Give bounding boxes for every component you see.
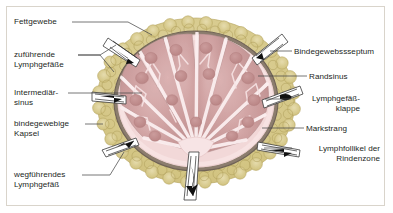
label-intermediaersinus: Intermediär- sinus	[14, 88, 58, 107]
label-wegfuehrendes-lymphgefaess: wegführendes Lymphgefäß	[14, 170, 65, 189]
label-randsinus: Randsinus	[309, 72, 348, 82]
label-bindegewebssseptum: Bindegewebssseptum	[294, 47, 374, 57]
label-bindegewebige-kapsel: bindegewebige Kapsel	[14, 119, 69, 138]
label-fettgewebe: Fettgewebe	[14, 17, 57, 27]
label-lymphfollikel-rindenzone: Lymphfollikel der Rindenzone	[294, 144, 380, 163]
label-lymphgefaessklappe: Lymphgefäß- klappe	[294, 94, 360, 113]
label-zufuehrende-lymphgefaesse: zuführende Lymphgefäße	[14, 50, 64, 69]
figure-page: Fettgewebe zuführende Lymphgefäße Interm…	[0, 0, 393, 213]
label-markstrang: Markstrang	[306, 124, 347, 134]
